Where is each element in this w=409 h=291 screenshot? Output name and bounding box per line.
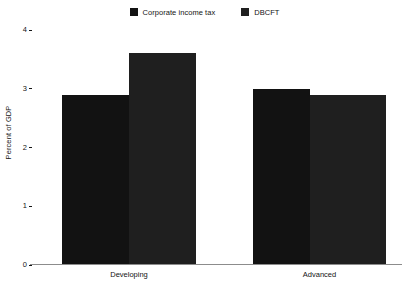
plot-area: 43210 [36, 30, 396, 265]
y-axis-tick-mark-icon [29, 30, 32, 31]
y-axis-tick-label: 0 [23, 261, 27, 269]
legend-item-corporate-income-tax: Corporate income tax [130, 8, 216, 17]
legend-label-corporate-income-tax: Corporate income tax [143, 8, 216, 17]
y-axis-tick-label: 3 [23, 84, 27, 92]
bar-advanced-dbcft [310, 95, 386, 265]
y-axis-tick-label: 4 [23, 26, 27, 34]
y-axis-title-text: Percent of GDP [5, 106, 14, 160]
y-axis-tick-label: 2 [23, 143, 27, 151]
y-axis-tick-mark-icon [29, 147, 32, 148]
bar-developing-corporate-income-tax [62, 95, 129, 265]
y-axis-tick-mark-icon [29, 88, 32, 89]
x-axis-label-advanced: Advanced [303, 270, 336, 280]
chart-legend: Corporate income tax DBCFT [0, 4, 409, 20]
legend-item-dbcft: DBCFT [241, 8, 279, 17]
x-axis-baseline [30, 264, 402, 265]
y-axis-tick-mark-icon [29, 206, 32, 207]
bar-series-container [36, 30, 396, 265]
y-axis-tick-label: 1 [23, 202, 27, 210]
bar-advanced-corporate-income-tax [253, 89, 310, 265]
y-axis-title: Percent of GDP [2, 0, 16, 265]
bar-developing-dbcft [129, 53, 196, 265]
x-axis-labels: DevelopingAdvanced [36, 270, 396, 284]
legend-label-dbcft: DBCFT [254, 8, 279, 17]
bar-chart: Corporate income tax DBCFT Percent of GD… [0, 0, 409, 291]
legend-swatch-icon-dbcft [241, 8, 249, 16]
x-axis-label-developing: Developing [110, 270, 148, 280]
legend-swatch-icon-corporate-income-tax [130, 8, 138, 16]
